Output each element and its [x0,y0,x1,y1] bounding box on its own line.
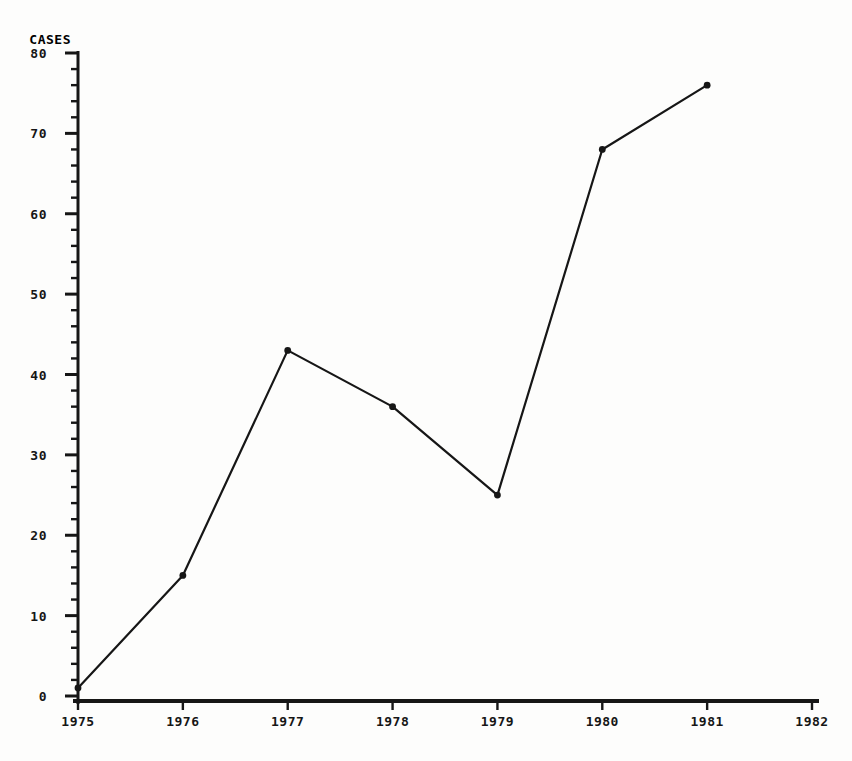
chart-figure: CASES 01020304050607080 1975197619771978… [0,0,852,761]
y-tick-label: 50 [30,287,47,302]
data-point [389,403,396,410]
x-tick-label: 1981 [690,714,723,729]
y-tick-label: 20 [30,528,47,543]
x-tick-label: 1978 [376,714,409,729]
x-tick-label: 1979 [481,714,514,729]
x-tick-label: 1980 [586,714,619,729]
x-tick-label: 1977 [271,714,304,729]
y-tick-label: 10 [30,609,47,624]
x-tick-label: 1976 [166,714,199,729]
y-tick-label: 70 [30,126,47,141]
data-series [75,82,711,692]
y-tick-label: 80 [30,46,47,61]
y-tick-label: 30 [30,448,47,463]
y-tick-label: 60 [30,207,47,222]
data-point [599,146,606,153]
data-point [494,492,501,499]
data-point [704,82,711,89]
x-tick-label: 1975 [61,714,94,729]
x-axis: 19751976197719781979198019811982 [61,701,828,729]
y-axis-title: CASES [29,32,71,47]
data-point [284,347,291,354]
data-line [78,85,707,688]
cases-line-chart: CASES 01020304050607080 1975197619771978… [0,0,852,761]
y-tick-label: 40 [30,368,47,383]
data-point [75,685,82,692]
x-tick-label: 1982 [795,714,828,729]
y-tick-label: 0 [39,689,47,704]
y-axis: 01020304050607080 [30,46,78,704]
data-point [179,572,186,579]
